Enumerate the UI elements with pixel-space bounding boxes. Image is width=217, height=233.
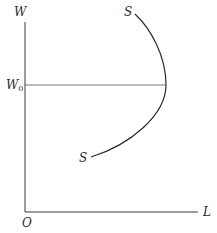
curve-label-top: S xyxy=(124,5,132,19)
supply-curve-diagram: W W0 L O S S xyxy=(0,0,217,233)
x-axis-label: L xyxy=(202,205,211,219)
y-axis-label: W xyxy=(14,5,28,19)
w0-label: W0 xyxy=(6,78,23,93)
supply-curve xyxy=(91,14,166,157)
w0-label-subscript: 0 xyxy=(18,84,23,93)
origin-label: O xyxy=(22,216,32,230)
curve-label-bottom: S xyxy=(79,151,87,165)
